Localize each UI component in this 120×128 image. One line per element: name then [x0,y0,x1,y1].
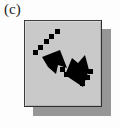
resize-tool-button[interactable] [24,20,102,107]
button-with-shadow [24,20,111,116]
figure-panel: (c) [0,0,120,128]
subfigure-label: (c) [4,1,21,18]
resize-diagonal-arrow-icon [31,27,95,100]
